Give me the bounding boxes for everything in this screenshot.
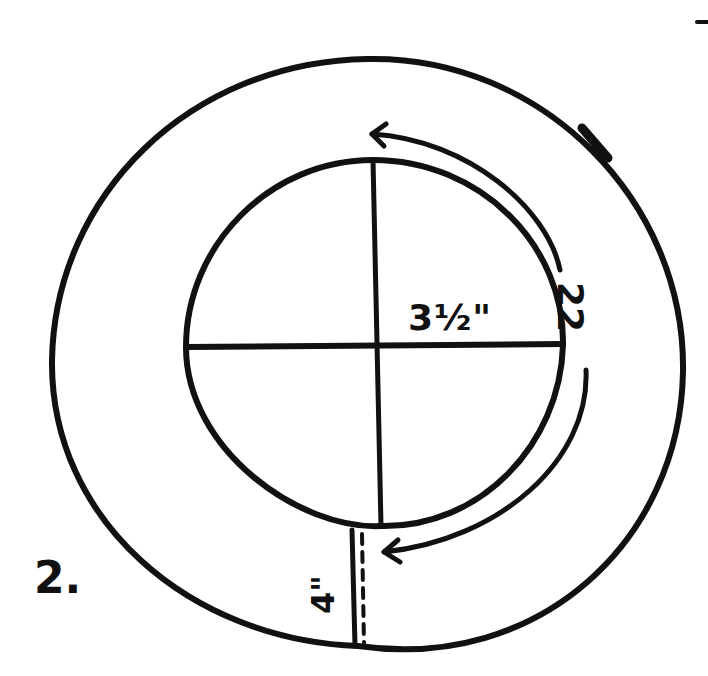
pattern-diagram [0,0,708,676]
circumference-label: 22 [552,282,588,332]
circumference-arrow-upper [372,134,560,270]
strip-length-label: 4" [307,575,339,614]
strip-solid-edge [352,530,355,646]
strip-dashed-edge [362,534,364,644]
outer-circle [52,59,683,649]
step-number-label: 2. [34,556,81,600]
horizontal-diameter-line [186,344,563,347]
radius-label: 3½" [408,300,492,336]
